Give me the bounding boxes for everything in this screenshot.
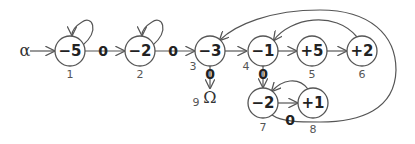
edge-label-2-3: 0 (168, 43, 178, 59)
state-diagram: 0 0 0 0 0 α −5 1 −2 2 −3 3 −1 4 +5 5 +2 … (0, 0, 415, 144)
node-1-value: −5 (58, 42, 81, 60)
node-9-index: 9 (193, 96, 200, 109)
node-6: +2 6 (347, 36, 377, 81)
node-5-value: +5 (300, 42, 323, 60)
end-symbol: Ω (203, 88, 216, 107)
node-7-value: −2 (251, 94, 274, 112)
node-6-index: 6 (359, 68, 366, 81)
node-1: −5 1 (55, 36, 85, 81)
node-2-value: −2 (128, 42, 151, 60)
start-symbol: α (20, 41, 31, 60)
edge-label-3-9: 0 (205, 66, 215, 82)
node-4-index: 4 (243, 60, 250, 73)
edge-label-4-7: 0 (258, 66, 268, 82)
node-8-value: +1 (301, 94, 324, 112)
edge-label-1-2: 0 (98, 43, 108, 59)
node-4-value: −1 (251, 42, 274, 60)
node-1-index: 1 (67, 68, 74, 81)
edge-label-7-3: 0 (285, 112, 295, 128)
node-7: −2 7 (248, 88, 278, 134)
node-8: +1 8 (298, 88, 328, 136)
node-3-value: −3 (198, 42, 221, 60)
node-5-index: 5 (309, 68, 316, 81)
node-7-index: 7 (260, 121, 267, 134)
node-6-value: +2 (350, 42, 373, 60)
node-2-index: 2 (137, 68, 144, 81)
node-2: −2 2 (125, 36, 155, 81)
edge-8-7 (272, 81, 308, 91)
node-8-index: 8 (310, 123, 317, 136)
node-5: +5 5 (297, 36, 327, 81)
node-9-terminal: Ω 9 (193, 88, 217, 109)
node-3-index: 3 (190, 60, 197, 73)
